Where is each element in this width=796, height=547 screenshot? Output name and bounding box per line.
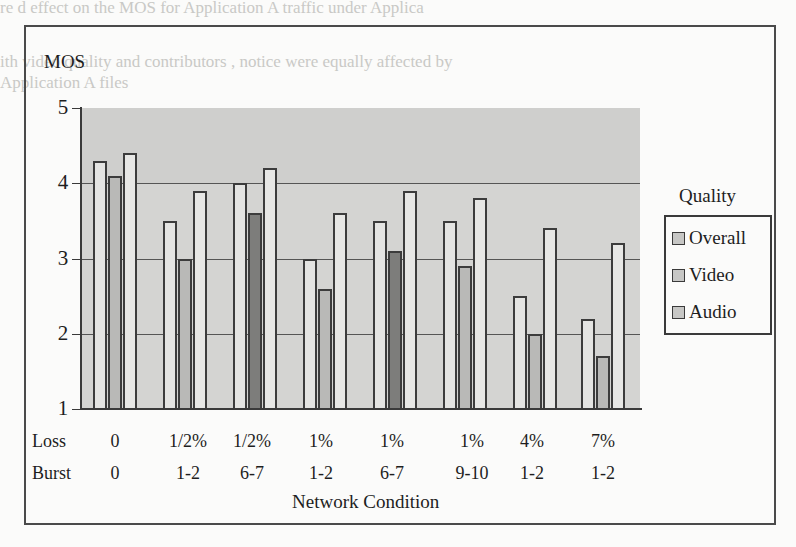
legend-item-video: Video — [672, 264, 734, 286]
legend-label: Overall — [689, 227, 746, 249]
ghost-line-1: re d effect on the MOS for Application A… — [0, 0, 424, 18]
x-loss-label: 1/2% — [153, 431, 223, 452]
y-tick-label: 1 — [56, 396, 70, 421]
y-tick — [72, 409, 81, 410]
x-burst-label: 1-2 — [497, 463, 567, 484]
bar-audio — [403, 191, 417, 409]
bar-video — [596, 356, 610, 409]
plot-area — [82, 108, 640, 409]
legend-swatch-icon — [672, 232, 685, 245]
x-burst-label: 1-2 — [568, 463, 638, 484]
bar-overall — [443, 221, 457, 409]
y-tick — [72, 334, 81, 335]
loss-row-label: Loss — [32, 431, 66, 452]
bar-overall — [93, 161, 107, 409]
bar-audio — [473, 198, 487, 409]
bar-audio — [123, 153, 137, 409]
x-loss-label: 0 — [80, 431, 150, 452]
x-burst-label: 6-7 — [357, 463, 427, 484]
bar-video — [178, 259, 192, 410]
y-tick — [72, 108, 81, 109]
y-tick-label: 4 — [56, 170, 70, 195]
bar-video — [108, 176, 122, 409]
bar-overall — [373, 221, 387, 409]
burst-row-label: Burst — [32, 463, 71, 484]
bar-overall — [513, 296, 527, 409]
x-loss-label: 4% — [497, 431, 567, 452]
bar-audio — [193, 191, 207, 409]
x-axis — [80, 408, 642, 410]
bar-overall — [581, 319, 595, 409]
bar-overall — [303, 259, 317, 410]
y-tick — [72, 259, 81, 260]
bar-audio — [263, 168, 277, 409]
bar-video — [248, 213, 262, 409]
legend-swatch-icon — [672, 306, 685, 319]
bar-overall — [233, 183, 247, 409]
x-burst-label: 0 — [80, 463, 150, 484]
x-loss-label: 1% — [286, 431, 356, 452]
legend-label: Audio — [689, 301, 737, 323]
bar-video — [388, 251, 402, 409]
y-axis-title: MOS — [44, 51, 85, 73]
x-burst-label: 1-2 — [286, 463, 356, 484]
x-loss-label: 1/2% — [217, 431, 287, 452]
bar-video — [318, 289, 332, 409]
legend-item-overall: Overall — [672, 227, 746, 249]
legend-title: Quality — [679, 185, 736, 207]
legend-label: Video — [689, 264, 734, 286]
bar-audio — [333, 213, 347, 409]
plot-band — [82, 108, 640, 183]
legend-item-audio: Audio — [672, 301, 737, 323]
x-loss-label: 1% — [357, 431, 427, 452]
y-tick-label: 5 — [56, 95, 70, 120]
x-loss-label: 7% — [568, 431, 638, 452]
y-tick-label: 2 — [56, 321, 70, 346]
bar-video — [528, 334, 542, 409]
bar-audio — [611, 243, 625, 409]
gridline — [82, 183, 640, 184]
legend-swatch-icon — [672, 269, 685, 282]
y-tick — [72, 183, 81, 184]
x-burst-label: 1-2 — [153, 463, 223, 484]
y-tick-label: 3 — [56, 246, 70, 271]
x-axis-title: Network Condition — [292, 491, 439, 513]
bar-video — [458, 266, 472, 409]
legend: OverallVideoAudio — [664, 215, 772, 335]
x-burst-label: 6-7 — [217, 463, 287, 484]
bar-audio — [543, 228, 557, 409]
bar-overall — [163, 221, 177, 409]
